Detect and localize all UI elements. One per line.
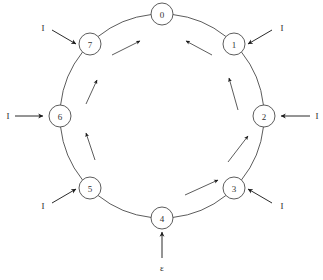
node-label-3: 3: [232, 184, 237, 194]
input-label-node-2: I: [316, 111, 319, 121]
input-arrow-to-node-7: [52, 30, 76, 44]
ring-node-4[interactable]: 4: [151, 207, 173, 229]
flow-direction-arrows-group: [86, 41, 248, 195]
ring-edge-2-3: [241, 127, 263, 180]
ring-edge-6-7: [61, 52, 83, 105]
input-label-node-6: I: [7, 111, 10, 121]
flow-arrow-2-to-1: [229, 78, 238, 110]
node-label-1: 1: [232, 40, 237, 50]
ring-edge-4-5: [98, 195, 151, 217]
ring-diagram-svg: IIIεIII 01234567: [0, 0, 323, 280]
ring-node-6[interactable]: 6: [49, 105, 71, 127]
node-label-0: 0: [160, 10, 165, 20]
ring-node-1[interactable]: 1: [223, 33, 245, 55]
flow-arrow-7-to-0: [112, 41, 140, 55]
ring-edge-7-0: [98, 15, 151, 37]
flow-arrow-1-to-0: [186, 41, 212, 55]
input-arrows-group: IIIεIII: [7, 23, 319, 273]
node-label-4: 4: [160, 214, 165, 224]
node-label-2: 2: [262, 112, 267, 122]
flow-arrow-3-to-2: [228, 136, 248, 162]
ring-edge-1-2: [241, 52, 263, 105]
node-label-7: 7: [88, 40, 93, 50]
input-label-node-5: I: [42, 201, 45, 211]
node-label-5: 5: [88, 184, 93, 194]
flow-arrow-4-to-3: [185, 180, 218, 195]
ring-edge-5-6: [61, 127, 83, 180]
ring-nodes-group: 01234567: [49, 3, 275, 229]
input-label-node-3: I: [281, 201, 284, 211]
ring-edge-0-1: [173, 15, 226, 37]
ring-diagram-canvas: IIIεIII 01234567: [0, 0, 323, 280]
ring-node-3[interactable]: 3: [223, 177, 245, 199]
ring-node-7[interactable]: 7: [79, 33, 101, 55]
input-arrow-to-node-1: [248, 30, 272, 44]
input-arrow-to-node-5: [52, 189, 76, 203]
node-label-6: 6: [58, 112, 63, 122]
flow-arrow-6-to-7: [86, 80, 97, 104]
ring-node-5[interactable]: 5: [79, 177, 101, 199]
input-label-node-1: I: [281, 23, 284, 33]
input-arrow-to-node-3: [248, 189, 272, 203]
input-label-node-7: I: [42, 23, 45, 33]
ring-node-2[interactable]: 2: [253, 105, 275, 127]
ring-node-0[interactable]: 0: [151, 3, 173, 25]
flow-arrow-5-to-6: [86, 133, 95, 160]
ring-edge-3-4: [173, 195, 226, 217]
input-label-node-4: ε: [160, 263, 164, 273]
